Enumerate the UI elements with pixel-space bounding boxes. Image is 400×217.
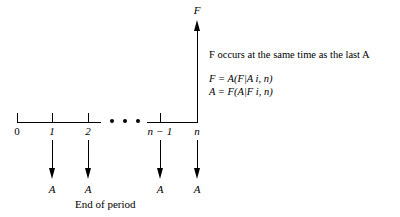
ellipsis-dot-3 — [136, 119, 140, 123]
annuity-arrowhead-n — [194, 168, 200, 179]
annuity-arrowhead-n-minus-1 — [157, 168, 163, 179]
end-of-period-caption: End of period — [75, 198, 135, 210]
tick-label-0: 0 — [7, 126, 27, 137]
annuity-arrow-shaft-n-minus-1 — [160, 140, 161, 170]
tick-label-n-minus-1: n − 1 — [143, 126, 177, 137]
tick-label-2: 2 — [78, 126, 98, 137]
formula-annuity: A = F(A|F i, n) — [209, 86, 273, 98]
annuity-arrow-shaft-2 — [88, 140, 89, 170]
annuity-label-n: A — [190, 184, 204, 195]
future-value-label: F — [190, 5, 204, 16]
ellipsis-dots — [110, 119, 140, 123]
tick-mark-n — [197, 113, 199, 122]
formula-future-value: F = A(F|A i, n) — [209, 73, 273, 85]
ellipsis-dot-2 — [123, 119, 127, 123]
tick-mark-2 — [88, 113, 90, 122]
ellipsis-dot-1 — [110, 119, 114, 123]
tick-mark-1 — [52, 113, 54, 122]
annuity-arrowhead-2 — [85, 168, 91, 179]
annuity-label-2: A — [81, 184, 95, 195]
timeline-axis-right — [147, 122, 197, 124]
annuity-arrow-shaft-1 — [52, 140, 53, 170]
tick-mark-n-minus-1 — [160, 113, 162, 122]
figure-canvas: F 0 1 2 n − 1 n A A A A End of period F … — [0, 0, 400, 217]
tick-label-n: n — [187, 126, 207, 137]
timing-statement: F occurs at the same time as the last A — [209, 49, 370, 61]
tick-mark-0 — [17, 113, 19, 122]
annuity-arrowhead-1 — [49, 168, 55, 179]
tick-label-1: 1 — [42, 126, 62, 137]
future-value-arrow-shaft — [197, 30, 198, 123]
annuity-arrow-shaft-n — [197, 140, 198, 170]
annuity-label-n-minus-1: A — [153, 184, 167, 195]
annuity-label-1: A — [45, 184, 59, 195]
